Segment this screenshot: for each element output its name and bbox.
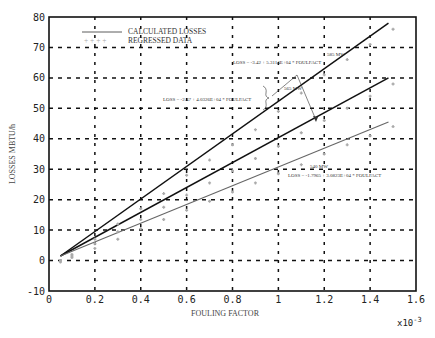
regressed-point — [162, 218, 165, 221]
regressed-point — [277, 172, 280, 175]
regressed-point — [392, 125, 395, 128]
x-multiplier-label: x10-3 — [397, 316, 422, 328]
regressed-point — [323, 73, 326, 76]
y-tick-label: 50 — [33, 103, 45, 114]
regressed-point — [162, 206, 165, 209]
regressed-point — [162, 192, 165, 195]
x-tick-label: 0 — [46, 294, 52, 305]
regressed-point — [392, 28, 395, 31]
regressed-point — [300, 131, 303, 134]
series-line — [60, 122, 388, 256]
regressed-point — [231, 143, 234, 146]
x-tick-label: 1.4 — [361, 294, 379, 305]
regressed-point — [231, 191, 234, 194]
regressed-point — [277, 110, 280, 113]
regressed-point — [369, 95, 372, 98]
y-tick-label: 40 — [33, 133, 45, 144]
regressed-point — [185, 194, 188, 197]
y-tick-label: 30 — [33, 164, 45, 175]
x-tick-label: 0.6 — [178, 294, 196, 305]
annotation-585mw-equation: LOSS = -3.42 + 5.3114E+04 * FOULFACT — [233, 60, 321, 65]
regressed-point — [208, 181, 211, 184]
grid-lines — [49, 17, 416, 291]
regressed-points — [59, 28, 395, 264]
annotation-565mw-equation: LOSS = -2.47 + 4.0326E+04 * FOULFACT — [163, 97, 251, 102]
regressed-point — [254, 157, 257, 160]
regressed-point — [369, 134, 372, 137]
brace-icon — [263, 86, 269, 110]
annotation-585mw-label: 585 MW — [327, 52, 345, 57]
regressed-point — [254, 128, 257, 131]
x-tick-label: 0.8 — [223, 294, 241, 305]
series-line — [60, 23, 388, 256]
chart-canvas: 00.20.40.60.811.21.41.6-1001020304050607… — [0, 0, 435, 338]
regressed-point — [346, 107, 349, 110]
regressed-point — [300, 92, 303, 95]
regressed-point — [392, 82, 395, 85]
annotation-540mw-label: 540 MW — [310, 164, 328, 169]
data-series — [60, 23, 388, 256]
regressed-point — [300, 163, 303, 166]
x-axis-label: FOULING FACTOR — [191, 309, 260, 318]
regressed-point — [254, 181, 257, 184]
y-tick-label: 80 — [33, 12, 45, 23]
regressed-point — [208, 159, 211, 162]
series-line — [60, 78, 388, 256]
regressed-point — [277, 145, 280, 148]
y-tick-label: -10 — [27, 286, 45, 297]
y-tick-label: 70 — [33, 42, 45, 53]
regressed-point — [185, 209, 188, 212]
x-tick-label: 0.4 — [132, 294, 150, 305]
x-tick-label: 0.2 — [86, 294, 104, 305]
regressed-point — [323, 119, 326, 122]
y-tick-label: 20 — [33, 194, 45, 205]
regressed-point — [139, 207, 142, 210]
y-tick-label: 0 — [39, 255, 45, 266]
regressed-point — [208, 200, 211, 203]
regressed-point — [139, 218, 142, 221]
x-tick-label: 1.2 — [315, 294, 333, 305]
x-tick-label: 1 — [275, 294, 281, 305]
legend-calculated-label: CALCULATED LOSSES — [128, 27, 206, 36]
y-tick-label: 10 — [33, 225, 45, 236]
regressed-point — [116, 238, 119, 241]
regressed-point — [346, 58, 349, 61]
regressed-point — [346, 143, 349, 146]
annotation-565mw-label: 565 MW — [284, 86, 302, 91]
y-tick-label: 60 — [33, 72, 45, 83]
regressed-point — [369, 43, 372, 46]
regressed-point — [185, 174, 188, 177]
regressed-point — [323, 153, 326, 156]
regressed-point — [93, 247, 96, 250]
legend: CALCULATED LOSSES + + + + REGRESSED DATA — [82, 27, 206, 45]
x-tick-label: 1.6 — [407, 294, 425, 305]
y-axis-label: LOSSES MBTU/h — [8, 124, 17, 184]
legend-regressed-label: REGRESSED DATA — [128, 36, 193, 45]
legend-plus-marker-icon: + + + + — [84, 36, 107, 45]
annotation-540mw-equation: LOSS = -1.7965 + 3.0823E+04 * FOULFACT — [288, 173, 381, 178]
